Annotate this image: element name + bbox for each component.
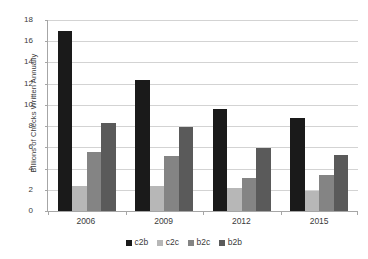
legend-swatch-icon [157,240,163,246]
bar-slot [334,20,349,211]
bar-chart: Billions of Checks Written Annually 0246… [0,0,368,259]
legend-swatch-icon [219,240,225,246]
y-axis-tick-label: 2 [11,186,33,194]
bar-b2b-2012[interactable] [256,148,271,211]
x-axis-tick-mark [281,211,282,215]
bar-slot [58,20,73,211]
x-axis-tick-label-2015: 2015 [280,216,358,227]
bar-c2c-2009[interactable] [150,186,165,211]
x-axis-tick-mark [126,211,127,215]
bar-c2b-2006[interactable] [58,31,73,211]
y-axis-tick-label: 6 [11,143,33,151]
bar-groups [48,20,358,211]
legend-item-c2c[interactable]: c2c [157,238,179,247]
y-axis-tick-label: 0 [11,207,33,215]
bar-c2b-2009[interactable] [135,80,150,211]
legend-label: c2c [166,238,179,247]
bar-slot [135,20,150,211]
bar-slot [319,20,334,211]
bar-slot [227,20,242,211]
bar-c2b-2015[interactable] [290,118,305,211]
x-axis-tick-label-2009: 2009 [125,216,203,227]
plot-area: 024681012141618 [47,20,358,211]
bar-group [126,20,204,211]
y-axis-tick-label: 18 [11,16,33,24]
y-axis-tick-label: 10 [11,101,33,109]
legend-item-b2c[interactable]: b2c [188,238,210,247]
legend-item-b2b[interactable]: b2b [219,238,242,247]
y-axis-title: Billions of Checks Written Annually [27,17,41,209]
y-axis-tick-label: 4 [11,165,33,173]
bar-b2b-2015[interactable] [334,155,349,211]
y-axis-tick-label: 12 [11,80,33,88]
bar-c2c-2006[interactable] [72,186,87,211]
x-axis-tick-label-2012: 2012 [203,216,281,227]
bar-b2b-2009[interactable] [179,127,194,211]
bar-slot [290,20,305,211]
bar-b2c-2006[interactable] [87,152,102,211]
bar-slot [256,20,271,211]
bar-c2c-2015[interactable] [305,191,320,211]
bar-slot [87,20,102,211]
bar-slot [150,20,165,211]
bar-slot [242,20,257,211]
x-axis-tick-mark [357,211,358,215]
chart-legend: c2bc2cb2cb2b [0,238,368,247]
legend-label: b2b [228,238,242,247]
bar-slot [164,20,179,211]
y-axis-tick-label: 16 [11,37,33,45]
legend-label: c2b [135,238,149,247]
legend-item-c2b[interactable]: c2b [126,238,148,247]
bar-group [203,20,281,211]
bar-b2c-2015[interactable] [319,175,334,211]
legend-label: b2c [197,238,211,247]
bar-slot [213,20,228,211]
bar-b2b-2006[interactable] [101,123,116,211]
bar-b2c-2012[interactable] [242,178,257,211]
bar-slot [72,20,87,211]
bar-c2c-2012[interactable] [227,188,242,211]
legend-swatch-icon [126,240,132,246]
bar-slot [179,20,194,211]
bar-group [48,20,126,211]
x-axis-tick-label-2006: 2006 [47,216,125,227]
bar-slot [305,20,320,211]
bar-b2c-2009[interactable] [164,156,179,211]
bar-c2b-2012[interactable] [213,109,228,211]
y-axis-tick-label: 14 [11,58,33,66]
y-axis-tick-label: 8 [11,122,33,130]
bar-group [281,20,359,211]
x-axis-tick-mark [203,211,204,215]
legend-swatch-icon [188,240,194,246]
x-axis-tick-mark [48,211,49,215]
bar-slot [101,20,116,211]
x-axis-tick-labels: 2006200920122015 [47,216,358,227]
